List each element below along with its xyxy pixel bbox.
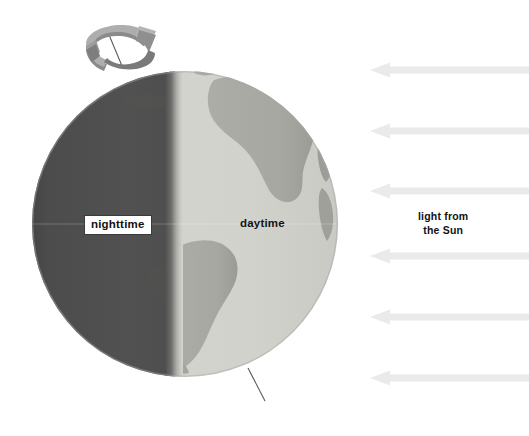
sun-ray-arrow bbox=[370, 124, 529, 139]
sun-ray-arrow bbox=[370, 371, 529, 386]
sunlight-label: light from the Sun bbox=[418, 209, 468, 237]
sunlight-label-line1: light from bbox=[418, 209, 468, 223]
sunlight-label-line2: the Sun bbox=[418, 223, 468, 237]
nighttime-label: nighttime bbox=[84, 215, 152, 235]
rotation-axis-bottom bbox=[248, 368, 265, 401]
sun-ray-arrow bbox=[370, 310, 529, 325]
terminator-band bbox=[165, 60, 183, 400]
daytime-label: daytime bbox=[240, 217, 285, 230]
sun-ray-arrow bbox=[370, 184, 529, 199]
earth-globe bbox=[20, 59, 432, 400]
diagram-canvas: nighttime daytime light from the Sun bbox=[0, 0, 529, 436]
sun-ray-arrow bbox=[370, 63, 529, 78]
sun-ray-arrow bbox=[370, 249, 529, 264]
